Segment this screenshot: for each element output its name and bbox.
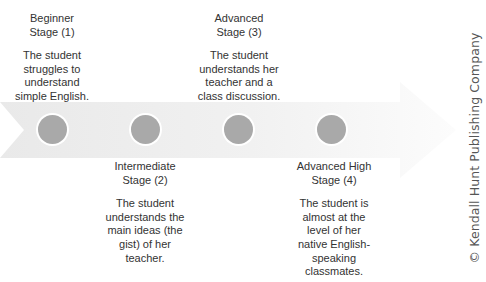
stage-4-title: Advanced High Stage (4) bbox=[279, 160, 389, 187]
stage-1-marker bbox=[38, 115, 67, 144]
stage-4-marker bbox=[317, 115, 346, 144]
stage-1-label: Beginner Stage (1) The student struggles… bbox=[0, 12, 107, 104]
stage-2-description: The student understands the main ideas (… bbox=[90, 197, 200, 265]
stage-4-description: The student is almost at the level of he… bbox=[279, 197, 389, 279]
stage-2-label: Intermediate Stage (2) The student under… bbox=[90, 160, 200, 265]
stage-3-label: Advanced Stage (3) The student understan… bbox=[184, 12, 294, 104]
stage-3-title: Advanced Stage (3) bbox=[184, 12, 294, 39]
stage-3-marker bbox=[224, 115, 253, 144]
stage-1-description: The student struggles to understand simp… bbox=[0, 49, 107, 103]
stage-3-description: The student understands her teacher and … bbox=[184, 49, 294, 103]
stage-2-marker bbox=[131, 115, 160, 144]
stage-4-label: Advanced High Stage (4) The student is a… bbox=[279, 160, 389, 279]
stage-2-title: Intermediate Stage (2) bbox=[90, 160, 200, 187]
stage-1-title: Beginner Stage (1) bbox=[0, 12, 107, 39]
copyright-notice: © Kendall Hunt Publishing Company bbox=[467, 33, 482, 264]
